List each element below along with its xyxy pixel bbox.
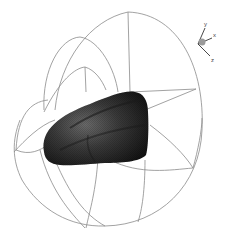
- solid-body[interactable]: [43, 92, 148, 166]
- axis-triad: y x z: [198, 21, 216, 63]
- 3d-viewport[interactable]: y x z: [0, 0, 230, 244]
- z-axis-label: z: [211, 57, 214, 63]
- y-axis-label: y: [204, 21, 207, 27]
- axis-origin-sphere: [199, 39, 206, 46]
- x-axis-label: x: [213, 32, 216, 38]
- z-axis-line: [198, 44, 210, 56]
